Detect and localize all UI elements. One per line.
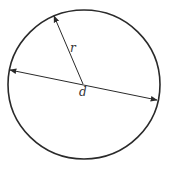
- radius-label: r: [70, 41, 77, 55]
- radius-arrow: [54, 16, 83, 84]
- diameter-label: d: [79, 85, 87, 99]
- circle-diagram: r d: [0, 0, 171, 176]
